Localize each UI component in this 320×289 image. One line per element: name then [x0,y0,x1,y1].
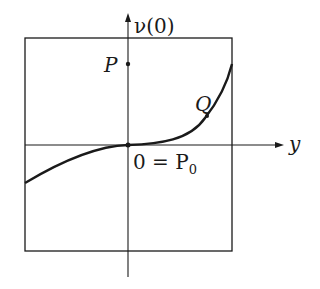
origin-point [126,143,131,148]
origin-label: 0 = P0 [133,150,197,177]
point-p [126,62,130,66]
horizontal-axis-arrow-icon [275,142,284,148]
vertical-axis-label: ν(0) [134,14,175,38]
point-q-label: Q [195,92,211,116]
diagram-canvas: ν(0) y P Q 0 = P0 [0,0,320,289]
horizontal-axis-label: y [288,132,301,156]
vertical-axis-arrow-icon [125,13,131,22]
point-p-label: P [103,53,118,77]
